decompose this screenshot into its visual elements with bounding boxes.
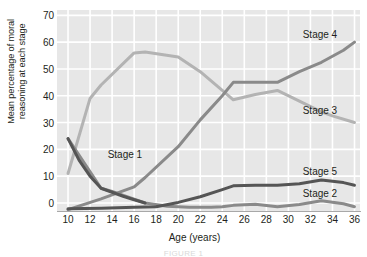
x-tick-label: 30 [283, 214, 294, 225]
y-tick-label: 0 [48, 197, 54, 208]
series-label-stage-5: Stage 5 [303, 166, 337, 177]
x-tick-label: 10 [62, 214, 73, 225]
x-tick-label: 36 [349, 214, 360, 225]
y-tick-label: 40 [43, 90, 54, 101]
x-tick-label: 12 [84, 214, 95, 225]
y-tick-label: 10 [43, 171, 54, 182]
x-tick-label: 20 [173, 214, 184, 225]
y-axis-title-line-1: Mean percentage of moral [6, 0, 17, 156]
x-axis-tick-labels: 1012141618202224262830323436 [0, 214, 367, 230]
y-tick-label: 70 [43, 10, 54, 21]
x-tick-label: 34 [327, 214, 338, 225]
x-axis-title-text: Age (years) [147, 232, 221, 243]
y-axis-title: Mean percentage of moral reasoning at ea… [6, 0, 29, 156]
x-tick-label: 18 [151, 214, 162, 225]
series-line-stage-4 [68, 42, 354, 210]
figure-container: Mean percentage of moral reasoning at ea… [0, 0, 367, 257]
y-tick-label: 20 [43, 144, 54, 155]
series-label-stage-3: Stage 3 [303, 105, 337, 116]
y-tick-label: 30 [43, 117, 54, 128]
x-tick-label: 16 [129, 214, 140, 225]
x-tick-label: 28 [261, 214, 272, 225]
x-tick-label: 26 [239, 214, 250, 225]
series-label-stage-2: Stage 2 [303, 188, 337, 199]
x-axis-title: Age (years) [0, 232, 367, 243]
x-axis-line [57, 211, 361, 212]
x-tick-label: 32 [305, 214, 316, 225]
y-tick-label: 60 [43, 37, 54, 48]
series-label-stage-1: Stage 1 [108, 149, 142, 160]
x-tick-label: 22 [195, 214, 206, 225]
series-label-stage-4: Stage 4 [303, 29, 337, 40]
y-axis-title-line-2: reasoning at each stage [17, 0, 28, 156]
y-tick-label: 50 [43, 63, 54, 74]
x-tick-label: 14 [107, 214, 118, 225]
figure-caption: FIGURE 1 [0, 249, 367, 257]
x-tick-label: 24 [217, 214, 228, 225]
